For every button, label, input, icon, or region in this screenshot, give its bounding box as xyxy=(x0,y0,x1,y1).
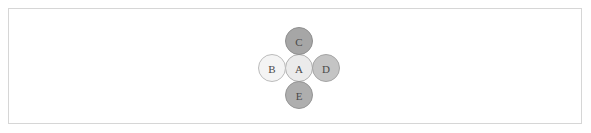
graph-node-d[interactable]: D xyxy=(313,55,340,82)
figure-root: ABCDE xyxy=(0,0,591,133)
graph-node-b[interactable]: B xyxy=(259,55,286,82)
node-link-graph: ABCDE xyxy=(0,0,591,133)
node-label: D xyxy=(322,63,330,75)
node-label: B xyxy=(268,63,275,75)
node-label: E xyxy=(296,90,303,102)
graph-node-c[interactable]: C xyxy=(286,28,313,55)
node-label: C xyxy=(295,36,302,48)
node-label: A xyxy=(295,63,303,75)
graph-node-a[interactable]: A xyxy=(286,55,313,82)
graph-node-e[interactable]: E xyxy=(286,82,313,109)
graph-nodes: ABCDE xyxy=(259,28,340,109)
